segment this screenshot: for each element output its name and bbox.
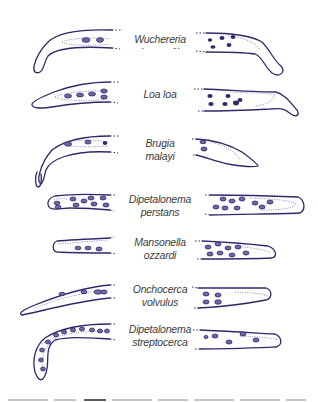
caption-fragment [194, 399, 234, 401]
worm-wuchereria-bancrofti-head [34, 30, 122, 73]
worm-mansonella-ozzardi-head [53, 237, 116, 254]
species-label: Brugiamalayi [130, 137, 190, 163]
worm-wuchereria-bancrofti-tail [196, 33, 283, 75]
caption-fragment [112, 399, 152, 401]
worm-dipetalonema-streptocerca-tail [193, 330, 281, 349]
figure-caption-cropped [8, 397, 308, 402]
caption-fragment [54, 399, 76, 401]
microfilariae-diagram: .ol { fill: none; stroke: #2e2a6b; strok… [0, 0, 318, 402]
label-onchocerca-volvulus: Onchocercavolvulus [125, 283, 195, 313]
worm-dipetalonema-perstans-tail [205, 195, 304, 215]
species-label: Onchocercavolvulus [125, 283, 195, 309]
species-label: Mansonellaozzardi [125, 236, 195, 262]
worm-loa-loa-tail [194, 89, 298, 116]
species-label: Dipetalonemaperstans [125, 193, 195, 219]
label-loa-loa: Loa loa [130, 88, 190, 104]
caption-fragment [240, 399, 280, 401]
caption-fragment [8, 399, 48, 401]
species-label: Wuchereria bancrofti [115, 33, 205, 49]
worm-onchocerca-volvulus-tail [192, 287, 271, 308]
diagram-canvas: .ol { fill: none; stroke: #2e2a6b; strok… [0, 0, 318, 402]
label-wuchereria-bancrofti: Wuchereria bancrofti [115, 33, 205, 49]
worm-brugia-malayi-head [36, 136, 120, 187]
worm-brugia-malayi-tail [192, 139, 258, 167]
worm-mansonella-ozzardi-tail [195, 241, 275, 259]
caption-fragment [286, 399, 306, 401]
worm-onchocerca-volvulus-head [21, 285, 116, 315]
label-brugia-malayi: Brugiamalayi [130, 137, 190, 167]
species-label: Dipetalonemastreptocerca [120, 323, 200, 349]
label-dipetalonema-streptocerca: Dipetalonemastreptocerca [120, 323, 200, 353]
label-mansonella-ozzardi: Mansonellaozzardi [125, 236, 195, 266]
species-label: Loa loa [130, 88, 190, 101]
worm-loa-loa-head [32, 82, 120, 108]
caption-fragment [158, 399, 188, 401]
worm-dipetalonema-perstans-head [48, 194, 116, 211]
worm-dipetalonema-streptocerca-head [34, 324, 116, 380]
label-dipetalonema-perstans: Dipetalonemaperstans [125, 193, 195, 223]
caption-fragment [84, 399, 106, 401]
